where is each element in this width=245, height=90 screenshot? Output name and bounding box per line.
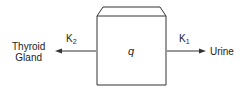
arrowhead-left-icon — [55, 49, 62, 54]
gland-text: Gland — [12, 52, 45, 63]
k2-label: K2 — [66, 33, 77, 45]
urine-label: Urine — [210, 46, 234, 57]
k1-subscript: 1 — [186, 38, 190, 45]
thyroid-text: Thyroid — [12, 41, 45, 52]
k2-subscript: 2 — [73, 38, 77, 45]
thyroid-gland-label: Thyroid Gland — [12, 41, 45, 63]
compartment-label: q — [128, 45, 134, 57]
k2-letter: K — [66, 33, 73, 44]
k1-label: K1 — [179, 33, 190, 45]
k1-letter: K — [179, 33, 186, 44]
arrowhead-right-icon — [199, 49, 206, 54]
